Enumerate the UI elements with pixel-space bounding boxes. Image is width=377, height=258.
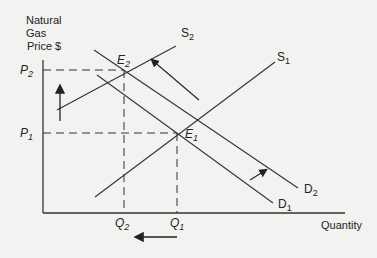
e2-label: E2 <box>117 53 130 69</box>
y-axis-label-line1: Natural <box>26 14 61 26</box>
y-axis-label-line3: Price $ <box>27 40 61 52</box>
supply-demand-chart: Natural Gas Price $ S2 S1 D2 D1 E2 E1 P2… <box>0 0 377 258</box>
q2-tick-label: Q2 <box>115 216 129 232</box>
demand-shift-arrow-icon <box>250 170 266 180</box>
p1-tick-label: P1 <box>20 126 33 142</box>
demand-curve-d2 <box>94 50 298 188</box>
s2-label: S2 <box>181 26 194 42</box>
s1-label: S1 <box>277 50 290 66</box>
p2-tick-label: P2 <box>20 63 33 79</box>
e1-label: E1 <box>185 127 198 143</box>
q1-tick-label: Q1 <box>170 216 184 232</box>
x-axis-label: Quantity <box>321 219 362 231</box>
d1-label: D1 <box>278 197 292 213</box>
d2-label: D2 <box>304 182 318 198</box>
y-axis-label-line2: Gas <box>26 27 47 39</box>
